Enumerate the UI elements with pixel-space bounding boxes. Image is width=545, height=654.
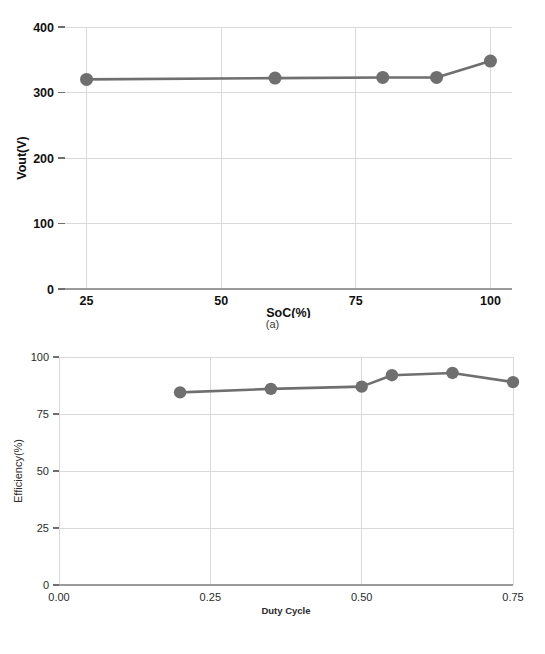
x-tick-label: 0.25 bbox=[200, 591, 221, 603]
data-point-marker[interactable] bbox=[269, 72, 282, 85]
y-tick-label: 300 bbox=[33, 86, 54, 100]
data-point-marker[interactable] bbox=[265, 383, 277, 395]
y-tick-label: 100 bbox=[33, 217, 54, 231]
data-point-marker[interactable] bbox=[355, 380, 367, 392]
x-tick-label: 25 bbox=[80, 294, 94, 308]
x-tick-label: 0.50 bbox=[351, 591, 372, 603]
y-axis-title: Efficiency(%) bbox=[12, 439, 24, 503]
data-point-marker[interactable] bbox=[376, 71, 389, 84]
chart-panel-b: 02550751000.000.250.500.75Duty CycleEffi… bbox=[0, 340, 545, 654]
data-point-marker[interactable] bbox=[386, 369, 398, 381]
series-line bbox=[87, 61, 491, 79]
data-point-marker[interactable] bbox=[507, 376, 519, 388]
y-axis-title: Vout(V) bbox=[15, 136, 29, 180]
series-line bbox=[180, 373, 513, 392]
y-tick-label: 50 bbox=[37, 465, 49, 477]
x-tick-label: 0.75 bbox=[502, 591, 523, 603]
data-point-marker[interactable] bbox=[80, 73, 93, 86]
x-tick-label: 50 bbox=[214, 294, 228, 308]
data-point-marker[interactable] bbox=[484, 55, 497, 68]
y-tick-label: 25 bbox=[37, 522, 49, 534]
x-tick-label: 75 bbox=[349, 294, 363, 308]
y-tick-label: 200 bbox=[33, 152, 54, 166]
data-point-marker[interactable] bbox=[446, 367, 458, 379]
y-tick-label: 0 bbox=[43, 579, 49, 591]
figure-page: 0100200300400255075100SoC(%)Vout(V) (a) … bbox=[0, 0, 545, 654]
data-point-marker[interactable] bbox=[430, 71, 443, 84]
data-point-marker[interactable] bbox=[174, 386, 186, 398]
chart-panel-a: 0100200300400255075100SoC(%)Vout(V) (a) bbox=[0, 0, 545, 340]
x-axis-title: SoC(%) bbox=[266, 306, 310, 318]
y-tick-label: 400 bbox=[33, 21, 54, 35]
x-tick-label: 0.00 bbox=[48, 591, 69, 603]
panel-a-caption: (a) bbox=[0, 318, 545, 330]
y-tick-label: 100 bbox=[31, 351, 49, 363]
chart-b-canvas: 02550751000.000.250.500.75Duty CycleEffi… bbox=[0, 340, 545, 632]
x-tick-label: 100 bbox=[480, 294, 501, 308]
chart-a-canvas: 0100200300400255075100SoC(%)Vout(V) bbox=[0, 0, 545, 318]
x-axis-title: Duty Cycle bbox=[261, 605, 310, 616]
y-tick-label: 75 bbox=[37, 408, 49, 420]
y-tick-label: 0 bbox=[47, 283, 54, 297]
